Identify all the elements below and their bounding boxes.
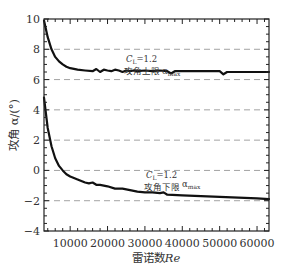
y-axis-title: 攻角 α/(°)	[7, 99, 21, 151]
upper-alpha-subscript: max	[168, 70, 181, 77]
y-tick-label: 6	[33, 74, 40, 87]
x-tick-label: 50000	[202, 237, 237, 250]
x-tick-labels: 100002000030000400005000060000	[53, 237, 275, 250]
svg-text:CL=1.2: CL=1.2	[126, 54, 157, 65]
y-tick-label: 2	[33, 134, 40, 147]
y-tick-label: −4	[24, 225, 40, 238]
x-axis-title-cn: 雷诺数	[132, 251, 166, 265]
lower-cl-value: =1.2	[157, 170, 178, 180]
lower-limit-label: 攻角下限	[144, 182, 180, 192]
x-tick-label: 60000	[240, 237, 275, 250]
y-tick-label: 4	[33, 104, 40, 117]
upper-cl-value: =1.2	[137, 54, 158, 64]
y-tick-label: 0	[33, 164, 40, 177]
svg-text:攻角上限αmax: 攻角上限αmax	[124, 66, 181, 77]
lower-alpha-subscript: max	[188, 183, 201, 190]
y-tick-labels: 1086420−2−4	[24, 13, 40, 238]
upper-curve-annotation: CL=1.2 攻角上限αmax	[124, 54, 181, 77]
svg-text:CL=1.2: CL=1.2	[146, 170, 177, 181]
chart: 1086420−2−4 1000020000300004000050000600…	[0, 0, 288, 272]
x-tick-label: 20000	[90, 237, 125, 250]
axis-ticks	[44, 19, 269, 231]
x-tick-label: 30000	[127, 237, 162, 250]
y-tick-label: 10	[26, 13, 40, 26]
y-tick-label: −2	[24, 195, 40, 208]
x-tick-label: 10000	[53, 237, 88, 250]
upper-limit-label: 攻角上限	[124, 66, 160, 76]
x-axis-title: 雷诺数Re	[132, 251, 181, 265]
x-axis-title-symbol: Re	[164, 251, 181, 265]
plot-frame	[44, 19, 269, 231]
y-tick-label: 8	[33, 43, 40, 56]
lower-curve-annotation: CL=1.2 攻角下限αmax	[144, 170, 201, 192]
x-tick-label: 40000	[165, 237, 200, 250]
